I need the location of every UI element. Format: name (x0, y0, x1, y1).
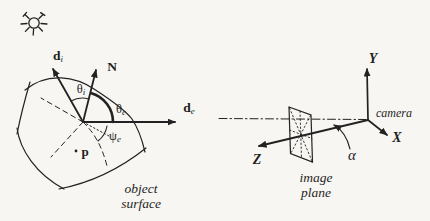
x-axis-arrow (368, 120, 387, 135)
alpha-angle-label: α (348, 148, 356, 163)
psi-e-label: ψe (109, 130, 121, 144)
label-sub: i (83, 87, 86, 97)
z-axis-arrow (259, 120, 368, 146)
theta-e-label: θe (116, 103, 126, 117)
y-axis-label: Y (369, 52, 378, 66)
emittance-direction-label: de (183, 101, 195, 116)
caption-line: image (300, 171, 333, 186)
sun-icon (21, 12, 47, 35)
surface-point-label: p (81, 145, 88, 158)
label-sub: e (191, 106, 195, 116)
theta-i-label: θi (77, 83, 86, 97)
caption-line: surface (121, 197, 161, 212)
label-main: ψ (109, 129, 117, 143)
figure: di N de θi θe ψe p object surface Y X Z … (0, 0, 430, 221)
y-axis-arrow (367, 69, 368, 120)
incident-direction-label: di (53, 49, 63, 64)
object-surface-caption: object surface (121, 182, 161, 211)
viewing-direction-dashdot-line (219, 119, 366, 120)
emittance-projection-dotted-line (83, 122, 109, 136)
image-plane-caption: image plane (300, 171, 333, 200)
alpha-angle-arrow (334, 125, 350, 149)
label-sub: e (117, 134, 121, 144)
theta-e-arc (92, 93, 114, 122)
label-main: d (183, 100, 191, 115)
surface-point-dot (75, 150, 78, 153)
surface-normal-label: N (107, 60, 117, 74)
label-sub: e (122, 107, 126, 117)
x-axis-label: X (392, 131, 401, 145)
caption-line: plane (300, 186, 333, 201)
label-sub: i (61, 54, 64, 64)
z-axis-label: Z (253, 153, 262, 167)
surface-grid-dashed-lines (41, 98, 107, 166)
theta-i-arc (71, 98, 89, 101)
psi-e-arc (98, 126, 107, 141)
label-main: d (53, 48, 61, 63)
camera-label: camera (376, 107, 412, 119)
caption-line: object (121, 182, 161, 197)
figure-linework (0, 0, 430, 221)
